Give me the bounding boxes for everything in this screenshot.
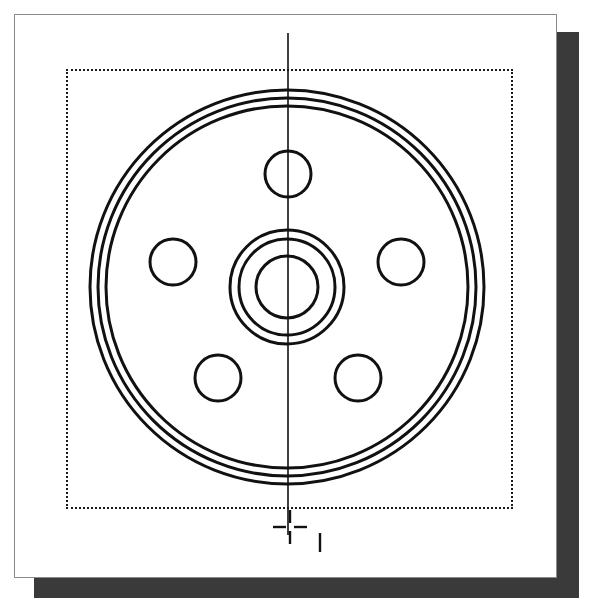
- wheel-hub-group[interactable]: [230, 230, 344, 344]
- bolt-hole-right[interactable]: [378, 239, 424, 285]
- rim-outer-circle[interactable]: [90, 90, 484, 484]
- cad-drawing-canvas[interactable]: [0, 0, 595, 604]
- bolt-hole-bottom-right[interactable]: [335, 355, 381, 401]
- hub-bore-circle[interactable]: [256, 256, 318, 318]
- wheel-rim-group[interactable]: [90, 90, 484, 484]
- bolt-hole-group[interactable]: [150, 151, 424, 401]
- bolt-hole-left[interactable]: [150, 239, 196, 285]
- rim-inner-circle[interactable]: [106, 106, 468, 468]
- rim-middle-circle[interactable]: [98, 98, 476, 476]
- bolt-hole-bottom-left[interactable]: [195, 355, 241, 401]
- crosshair-cursor: [273, 510, 320, 552]
- hub-middle-circle[interactable]: [239, 239, 335, 335]
- screenshot-stage: [0, 0, 595, 604]
- hub-outer-circle[interactable]: [230, 230, 344, 344]
